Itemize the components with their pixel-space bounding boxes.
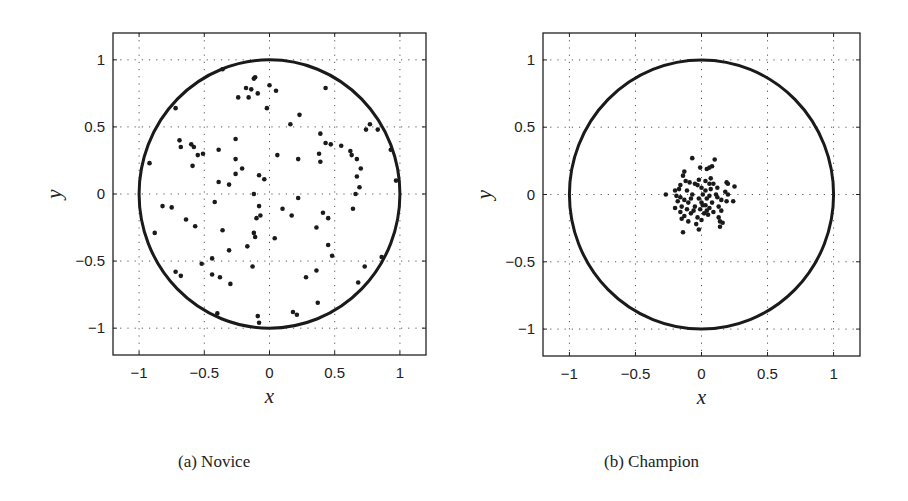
data-point — [364, 127, 369, 132]
champion-y-axis-label: y — [472, 189, 496, 201]
data-point — [675, 199, 680, 204]
data-point — [679, 204, 684, 209]
data-point — [220, 228, 225, 233]
x-tick-label: 1 — [396, 364, 404, 381]
data-point — [682, 198, 687, 203]
x-tick-label: −1 — [131, 364, 148, 381]
x-tick-label: 0 — [697, 365, 705, 382]
data-point — [323, 141, 328, 146]
data-point — [708, 176, 713, 181]
data-point — [295, 312, 300, 317]
data-point — [355, 174, 360, 179]
data-point — [330, 253, 335, 258]
data-point — [215, 311, 220, 316]
y-tick-label: −1 — [88, 319, 105, 336]
data-point — [718, 225, 723, 230]
data-point — [257, 204, 262, 209]
data-point — [732, 184, 737, 189]
x-tick-label: −0.5 — [189, 364, 219, 381]
data-point — [195, 153, 200, 158]
data-point — [724, 199, 729, 204]
data-point — [719, 198, 724, 203]
data-point — [726, 181, 731, 186]
data-point — [683, 179, 688, 184]
data-point — [686, 200, 691, 205]
y-tick-label: 0.5 — [514, 118, 535, 135]
data-point — [314, 225, 319, 230]
data-point — [192, 145, 197, 150]
data-point — [699, 185, 704, 190]
data-point — [252, 192, 257, 197]
data-point — [274, 88, 279, 93]
y-tick-label: 1 — [527, 51, 535, 68]
data-point — [177, 138, 182, 143]
data-point — [254, 216, 259, 221]
data-point — [368, 122, 373, 127]
data-point — [697, 196, 702, 201]
data-point — [687, 180, 692, 185]
data-point — [690, 156, 695, 161]
data-point — [664, 192, 669, 197]
data-point — [673, 188, 678, 193]
data-point — [201, 151, 206, 156]
data-point — [388, 147, 393, 152]
data-point — [685, 207, 690, 212]
data-point — [318, 160, 323, 165]
x-tick-label: −0.5 — [621, 365, 651, 382]
data-point — [682, 169, 687, 174]
data-point — [210, 256, 215, 261]
data-point — [152, 231, 157, 236]
data-point — [348, 149, 353, 154]
novice-data-points — [147, 67, 398, 325]
data-point — [252, 76, 257, 81]
y-tick-label: 1 — [97, 51, 105, 68]
data-point — [362, 264, 367, 269]
y-tick-label: −1 — [518, 320, 535, 337]
data-point — [707, 194, 712, 199]
data-point — [244, 86, 249, 91]
data-point — [678, 183, 683, 188]
data-point — [304, 275, 309, 280]
data-point — [375, 127, 380, 132]
data-point — [272, 236, 277, 241]
data-point — [339, 143, 344, 148]
data-point — [233, 172, 238, 177]
data-point — [227, 248, 232, 253]
data-point — [296, 157, 301, 162]
champion-data-points — [664, 156, 737, 235]
data-point — [318, 131, 323, 136]
novice-plot-panel: −1−0.500.51−1−0.500.51xy — [0, 0, 454, 420]
y-tick-label: 0.5 — [84, 118, 105, 135]
y-tick-label: 0 — [527, 186, 535, 203]
data-point — [694, 222, 699, 227]
data-point — [246, 95, 251, 100]
data-point — [695, 215, 700, 220]
data-point — [315, 300, 320, 305]
data-point — [193, 224, 198, 229]
data-point — [678, 210, 683, 215]
data-point — [716, 215, 721, 220]
data-point — [179, 274, 184, 279]
data-point — [317, 151, 322, 156]
x-tick-label: 0.5 — [324, 364, 345, 381]
data-point — [731, 199, 736, 204]
data-point — [314, 268, 319, 273]
data-point — [715, 195, 720, 200]
data-point — [711, 210, 716, 215]
data-point — [697, 227, 702, 232]
data-point — [288, 122, 293, 127]
data-point — [349, 153, 354, 158]
data-point — [255, 314, 260, 319]
data-point — [267, 83, 272, 88]
data-point — [710, 200, 715, 205]
data-point — [726, 192, 731, 197]
data-point — [321, 210, 326, 215]
x-tick-label: 0.5 — [757, 365, 778, 382]
data-point — [250, 264, 255, 269]
data-point — [296, 196, 301, 201]
data-point — [169, 205, 174, 210]
data-point — [685, 188, 690, 193]
data-point — [677, 187, 682, 192]
data-point — [147, 161, 152, 166]
data-point — [674, 194, 679, 199]
